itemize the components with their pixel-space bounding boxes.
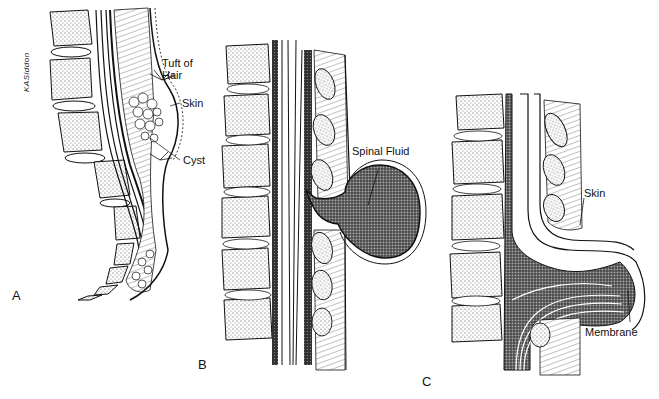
panel-letter-c: C (422, 374, 431, 389)
panel-a-drawing (50, 8, 183, 300)
label-spinal-fluid: Spinal Fluid (352, 145, 409, 157)
label-membrane: Membrane (585, 326, 638, 338)
label-skin-c: Skin (584, 187, 605, 199)
label-tuft-of-hair: Tuft of Hair (162, 57, 193, 81)
label-cyst: Cyst (183, 154, 205, 166)
label-tuft-line2: Hair (162, 69, 193, 81)
label-skin-a: Skin (182, 97, 203, 109)
illustration-canvas (0, 0, 659, 399)
artist-signature: KASiddon (22, 52, 31, 92)
panel-letter-b: B (198, 357, 207, 372)
label-tuft-line1: Tuft of (162, 57, 193, 69)
panel-letter-a: A (12, 288, 21, 303)
panel-b-drawing (222, 40, 426, 370)
